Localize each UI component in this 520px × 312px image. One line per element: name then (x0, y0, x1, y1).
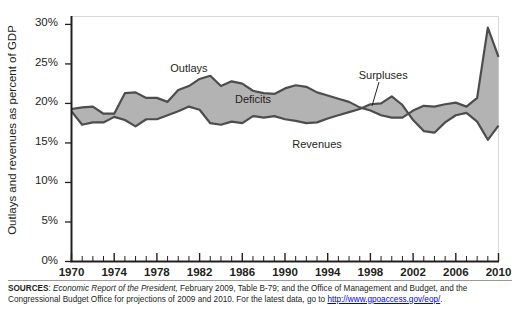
plot-panel (72, 17, 499, 262)
sources-italic-title: Economic Report of the President, (53, 284, 178, 293)
sources-note: SOURCES: Economic Report of the Presiden… (8, 284, 512, 305)
chart-plot-area (0, 0, 520, 285)
annotation-deficits: Deficits (235, 93, 271, 105)
x-tick-label: 1986 (220, 266, 264, 278)
x-tick-label: 2010 (477, 266, 520, 278)
x-tick-label: 2006 (434, 266, 478, 278)
y-tick-label: 20% (14, 95, 58, 107)
y-tick-label: 30% (14, 16, 58, 28)
y-tick-label: 5% (14, 214, 58, 226)
annotation-surpluses: Surpluses (359, 69, 408, 81)
footer-divider (8, 280, 512, 281)
sources-url-link[interactable]: http://www.gpoaccess.gov/eop/ (327, 295, 440, 304)
sources-label: SOURCES (8, 284, 49, 293)
annotation-revenues: Revenues (292, 138, 342, 150)
sources-tail: . (440, 295, 442, 304)
x-tick-label: 1990 (263, 266, 307, 278)
y-tick-label: 25% (14, 56, 58, 68)
sources-rest-2: Budget Office for projections of 2009 an… (63, 295, 328, 304)
y-tick-label: 15% (14, 135, 58, 147)
x-tick-label: 2002 (391, 266, 435, 278)
annotation-outlays: Outlays (170, 62, 207, 74)
x-tick-label: 1998 (348, 266, 392, 278)
x-tick-label: 1978 (135, 266, 179, 278)
figure: Outlays and revenues as percent of GDP 0… (0, 0, 520, 312)
x-tick-label: 1982 (178, 266, 222, 278)
y-tick-label: 10% (14, 174, 58, 186)
x-tick-label: 1994 (306, 266, 350, 278)
y-tick-label: 0% (14, 254, 58, 266)
x-tick-label: 1970 (50, 266, 94, 278)
x-tick-label: 1974 (92, 266, 136, 278)
